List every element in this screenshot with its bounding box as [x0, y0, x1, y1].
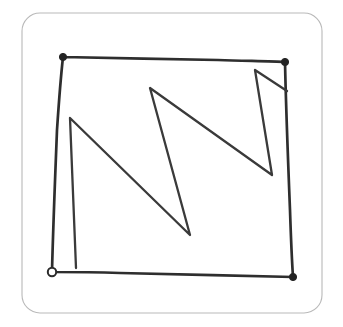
sketch-svg	[0, 0, 343, 327]
zigzag-gesture-stroke	[70, 70, 287, 268]
corner-node-top-left	[59, 53, 66, 60]
corner-node-bottom-right	[289, 273, 296, 280]
start-point-marker	[48, 268, 56, 276]
sketch-canvas	[0, 0, 343, 327]
corner-node-top-right	[281, 58, 288, 65]
